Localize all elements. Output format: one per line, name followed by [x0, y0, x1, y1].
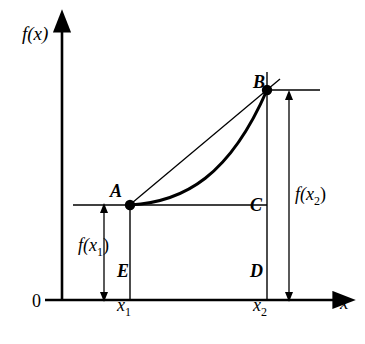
- tick-label-x2: x2: [253, 296, 267, 318]
- tick-label-x2-main: x: [253, 295, 261, 315]
- origin-label: 0: [32, 292, 41, 310]
- tick-label-x1-main: x: [117, 295, 125, 315]
- x-axis-label: x: [340, 293, 348, 312]
- measure-label-fx1-end: ): [103, 235, 109, 255]
- measure-label-fx1-main: f(x: [78, 235, 97, 255]
- measure-label-fx2-main: f(x: [295, 184, 314, 204]
- diagram-graphic: [0, 0, 365, 344]
- point-E-label: E: [117, 262, 129, 280]
- point-B-label: B: [253, 73, 265, 91]
- measure-fx2-arrow-up: [285, 90, 293, 100]
- measure-label-fx1: f(x1): [78, 236, 109, 258]
- tick-label-x2-sub: 2: [261, 305, 267, 319]
- diagram-canvas: f(x) x 0 A B C D E x1 x2 f(x1) f(x2): [0, 0, 365, 344]
- point-C-label: C: [250, 196, 262, 214]
- measure-label-fx2: f(x2): [295, 185, 326, 207]
- secant-line-AB: [126, 79, 280, 208]
- point-A-label: A: [110, 182, 122, 200]
- y-axis-label: f(x): [22, 24, 48, 43]
- tick-label-x1-sub: 1: [125, 305, 131, 319]
- tick-label-x1: x1: [117, 296, 131, 318]
- measure-label-fx2-end: ): [320, 184, 326, 204]
- point-D-label: D: [250, 262, 263, 280]
- point-A-marker: [125, 200, 135, 210]
